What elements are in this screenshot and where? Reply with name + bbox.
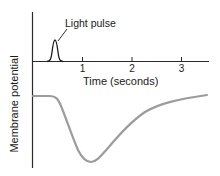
x-tick-label-3: 3 <box>179 63 185 74</box>
light-pulse-curve <box>47 40 63 62</box>
x-tick-label-2: 2 <box>129 63 135 74</box>
membrane-potential-chart: 1 2 3 Time (seconds) Membrane potential … <box>0 0 220 176</box>
light-pulse-annotation: Light pulse <box>65 17 116 29</box>
membrane-potential-curve <box>33 95 207 162</box>
x-axis-label: Time (seconds) <box>83 75 158 87</box>
x-tick-label-1: 1 <box>80 63 86 74</box>
annotation-leader-line <box>58 29 67 41</box>
y-axis-label: Membrane potential <box>8 55 20 152</box>
